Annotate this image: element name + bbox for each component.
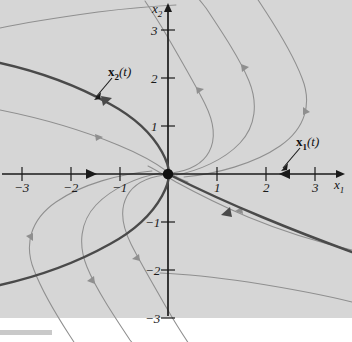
y-tick-label--1: −1 [145,216,160,229]
x-axis-label-sub: 1 [340,185,345,195]
x-tick-label--1: −1 [112,181,127,194]
y-axis-arrowhead [164,3,172,12]
trajectory-upper-right-3 [184,0,307,177]
x2-label-paren: (t) [119,64,131,79]
x-tick-label--2: −2 [63,181,78,194]
trajectory-lower-right-2 [160,273,352,302]
flow-arrow-separatrix-lower [221,207,232,217]
flow-arrow-ll2 [87,276,95,284]
x-axis-flow-arrow-left [86,169,97,179]
y-tick-label--3: −3 [145,312,160,325]
x1-label-leader-arrowhead [281,163,288,171]
flow-arrow-ul1 [95,134,103,141]
x-axis-flow-arrow-right [279,169,290,179]
y-axis-label-sub: 2 [158,9,163,19]
x-tick-label-3: 3 [312,181,319,194]
trajectory-group-light [0,0,352,342]
x1-label-paren: (t) [307,134,319,149]
trajectory-lower-left-3 [29,171,152,342]
flow-arrow-ur2 [241,64,249,72]
y-tick-label-2: 2 [151,72,158,85]
y-axis-label: x2 [152,2,162,19]
y-tick-label--2: −2 [145,264,160,277]
y-tick-label-3: 3 [151,24,158,37]
x-axis-label: x1 [334,178,344,195]
x-tick-label-1: 1 [214,181,221,194]
x-tick-label-2: 2 [263,181,270,194]
separatrix-x2-lower-right [172,176,352,252]
x-tick-label--3: −3 [14,181,29,194]
x1-of-t-label: x1(t) [296,135,319,152]
origin-equilibrium-dot [163,169,173,179]
flow-arrow-ur1 [196,87,204,94]
y-tick-label-1: 1 [151,120,158,133]
x2-of-t-label: x2(t) [108,65,131,82]
phase-portrait-svg [0,0,352,342]
phase-portrait-figure: −3 −2 −1 1 2 3 3 2 1 −1 −2 −3 x1 x2 x1(t… [0,0,352,342]
trajectory-upper-right-2 [176,0,254,175]
flow-arrow-ll1 [132,254,140,261]
